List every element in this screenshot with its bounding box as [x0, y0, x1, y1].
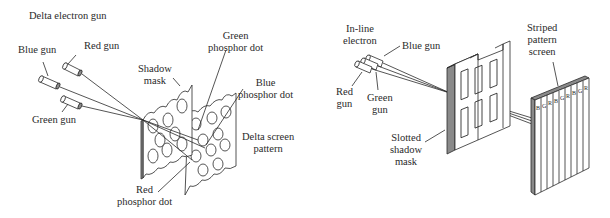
- stripe-letter: B: [536, 105, 540, 111]
- stripe-letter: G: [578, 88, 583, 94]
- slotted-shadow-mask: [447, 41, 510, 154]
- label-green-phosphor-dot: Green phosphor dot: [208, 30, 263, 54]
- red-gun-icon: [62, 62, 83, 77]
- label-red-gun: Red gun: [84, 40, 119, 52]
- stripe-letter: G: [560, 95, 565, 101]
- label-in-line-electron: In-line electron: [343, 23, 377, 47]
- label-green-gun-inline: Green gun: [367, 92, 393, 116]
- left-diagram-title: Delta electron gun: [29, 10, 107, 22]
- label-delta-screen-pattern: Delta screen pattern: [242, 131, 294, 155]
- crt-diagram-canvas: B G R B G R B G R: [0, 0, 610, 218]
- label-striped-pattern-screen: Striped pattern screen: [527, 22, 557, 58]
- label-slotted-shadow-mask: Slotted shadow mask: [390, 132, 422, 168]
- label-blue-gun-inline: Blue gun: [402, 40, 440, 52]
- label-blue-gun: Blue gun: [18, 44, 56, 56]
- stripe-letter: G: [542, 103, 547, 109]
- label-red-gun-inline: Red gun: [336, 86, 353, 110]
- stripe-letter: R: [548, 100, 552, 106]
- label-green-gun: Green gun: [32, 114, 76, 126]
- label-red-phosphor-dot: Red phosphor dot: [117, 184, 172, 208]
- label-shadow-mask: Shadow mask: [138, 63, 172, 87]
- blue-gun-icon: [38, 75, 61, 90]
- green-gun-icon: [60, 95, 83, 110]
- stripe-letter: B: [554, 98, 558, 104]
- stripe-letter: R: [584, 85, 588, 91]
- stripe-letter: B: [572, 90, 576, 96]
- stripe-letter: R: [566, 93, 570, 99]
- label-blue-phosphor-dot: Blue phosphor dot: [238, 77, 293, 101]
